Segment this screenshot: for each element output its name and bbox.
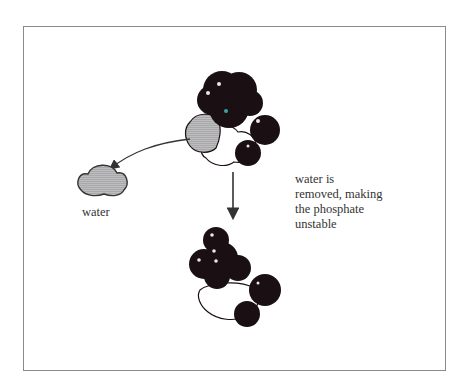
caption-line: unstable [295, 217, 415, 232]
caption-text: water is removed, making the phosphate u… [295, 172, 415, 232]
curved-arrow [111, 139, 190, 168]
water-label: water [82, 205, 110, 220]
caption-line: water is [295, 172, 415, 187]
caption-line: removed, making [295, 187, 415, 202]
caption-line: the phosphate [295, 202, 415, 217]
phosphate-molecule-top [186, 71, 281, 166]
phosphate-molecule-bottom [189, 227, 281, 327]
water-molecule [78, 165, 127, 195]
